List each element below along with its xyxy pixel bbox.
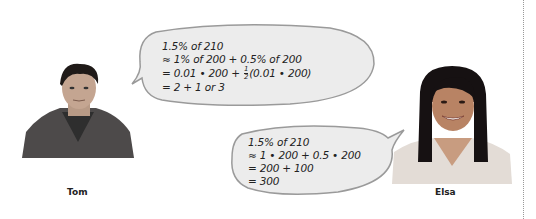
tom-photo [22,62,134,158]
tom-bubble-text: 1.5% of 210 ≈ 1% of 200 + 0.5% of 200 = … [162,40,311,94]
tom-line-1: 1.5% of 210 [162,40,311,53]
tom-line-2: ≈ 1% of 200 + 0.5% of 200 [162,53,311,66]
tom-line-4: = 2 + 1 or 3 [162,81,311,94]
elsa-line-1: 1.5% of 210 [248,136,361,149]
divider-line [523,0,524,219]
tom-line-3-end: (0.01 • 200) [249,67,311,79]
elsa-photo [392,62,512,184]
tom-line-3-start: = 0.01 • 200 + [162,67,243,79]
tom-name-label: Tom [67,187,88,197]
elsa-line-2: ≈ 1 • 200 + 0.5 • 200 [248,149,361,162]
one-half-fraction: 12 [244,66,248,81]
elsa-name-label: Elsa [435,187,456,197]
fraction-denominator: 2 [244,74,248,81]
elsa-line-3: = 200 + 100 [248,162,361,175]
tom-line-3: = 0.01 • 200 + 12(0.01 • 200) [162,66,311,81]
elsa-bubble-text: 1.5% of 210 ≈ 1 • 200 + 0.5 • 200 = 200 … [248,136,361,188]
elsa-line-4: = 300 [248,175,361,188]
